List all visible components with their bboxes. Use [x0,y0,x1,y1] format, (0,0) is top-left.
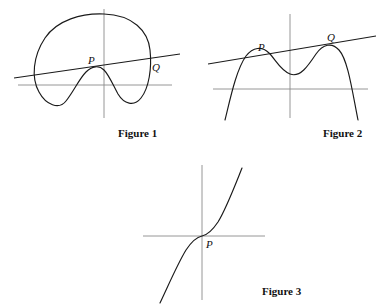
figure-3-curve [160,168,242,303]
figure-2-point-label-p: P [258,42,265,53]
figure-3-point-label-p: P [206,239,213,250]
figure-2-caption: Figure 2 [323,128,362,139]
figure-2-tangent-line [208,36,376,64]
figure-2-panel [200,8,381,120]
figure-1-point-label-p: P [88,55,95,66]
figure-2-curve [225,45,358,120]
figure-1-plot [0,0,190,120]
figure-1-point-label-q: Q [152,62,160,73]
figure-3-plot [120,158,300,303]
figure-1-panel [0,0,190,120]
figure-2-point-label-q: Q [327,32,335,43]
figure-2-plot [200,8,381,120]
figure-3-caption: Figure 3 [262,286,301,297]
figure-3-panel [120,158,300,303]
figure-1-caption: Figure 1 [118,128,157,139]
